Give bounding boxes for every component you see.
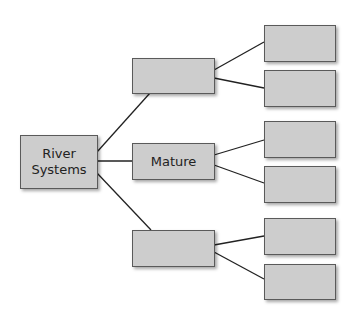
root-label-line2: Systems — [31, 162, 86, 178]
branch-node-3 — [132, 230, 215, 267]
root-node-river-systems: River Systems — [20, 135, 98, 189]
root-label-line1: River — [31, 146, 86, 162]
leaf-node-2-1 — [264, 121, 336, 158]
leaf-node-1-1 — [264, 25, 336, 62]
leaf-node-1-2 — [264, 70, 336, 107]
leaf-node-3-1 — [264, 218, 336, 255]
branch-node-mature: Mature — [132, 143, 215, 180]
branch-label: Mature — [151, 154, 197, 170]
leaf-node-2-2 — [264, 166, 336, 203]
leaf-node-3-2 — [264, 264, 336, 300]
branch-node-1 — [132, 58, 215, 94]
